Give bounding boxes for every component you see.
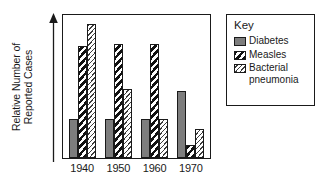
y-axis-label-container: Relative Number of Reported Cases: [0, 14, 44, 160]
bar-measles-1970: [186, 145, 195, 158]
bar-bacterial-1950: [123, 89, 132, 158]
bold-diagonal-hatch-swatch-icon: [234, 51, 246, 60]
y-axis-label-line-2: Reported Cases: [22, 50, 35, 124]
y-axis-label-line-1: Relative Number of: [10, 43, 23, 131]
x-tick-1960: 1960: [138, 162, 171, 174]
bar-measles-1950: [114, 44, 123, 158]
legend-title: Key: [234, 18, 314, 32]
bar-chart-figure: Relative Number of Reported Cases: [0, 0, 324, 194]
x-tick-1940: 1940: [66, 162, 99, 174]
y-axis-label: Relative Number of Reported Cases: [0, 14, 44, 160]
x-tick-1970: 1970: [174, 162, 207, 174]
bar-measles-1940: [78, 46, 87, 158]
legend-label-bacterial-pneumonia: Bacterial pneumonia: [249, 62, 298, 85]
bar-group-1940: [69, 15, 96, 158]
legend-label-measles: Measles: [249, 49, 286, 61]
bar-group-1960: [141, 15, 168, 158]
bar-bacterial-1970: [195, 129, 204, 158]
x-tick-1950: 1950: [102, 162, 135, 174]
legend-entry-measles: Measles: [234, 49, 314, 61]
bar-diabetes-1940: [69, 119, 78, 158]
bar-group-1970: [177, 15, 204, 158]
legend-label-diabetes: Diabetes: [249, 35, 288, 47]
solid-gray-swatch-icon: [234, 37, 246, 46]
legend-entry-diabetes: Diabetes: [234, 35, 314, 47]
bar-diabetes-1960: [141, 119, 150, 158]
legend-entry-bacterial-pneumonia: Bacterial pneumonia: [234, 62, 314, 85]
y-axis-arrow-icon: [47, 12, 60, 162]
bar-bacterial-1960: [159, 119, 168, 158]
fine-diagonal-hatch-swatch-icon: [234, 64, 246, 73]
bar-group-1950: [105, 15, 132, 158]
x-axis-tick-labels: 1940 1950 1960 1970: [62, 162, 211, 180]
bar-measles-1960: [150, 44, 159, 158]
legend-box: Key Diabetes Measles Bacterial pneumonia: [226, 14, 315, 106]
bar-diabetes-1950: [105, 119, 114, 158]
bar-diabetes-1970: [177, 91, 186, 158]
bar-bacterial-1940: [87, 24, 96, 158]
bar-groups-container: [63, 15, 210, 158]
plot-area: [62, 14, 211, 159]
